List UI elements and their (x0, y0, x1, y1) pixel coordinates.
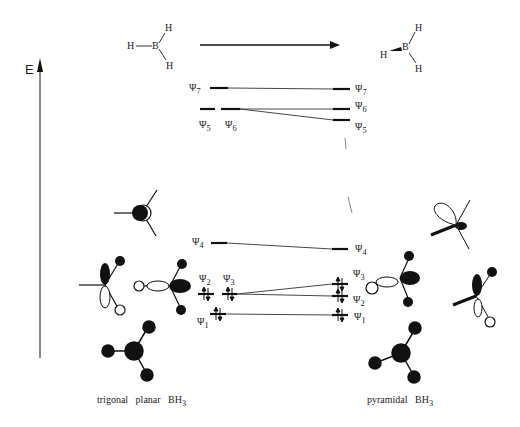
level-label-left-psi3: Ψ3 (223, 273, 235, 287)
planar-bh3-structure (136, 33, 166, 60)
orbital-psi1-pyramidal (369, 322, 421, 383)
atom-h: H (415, 22, 422, 33)
atom-h: H (166, 60, 173, 71)
orbital-psi1-planar (102, 321, 155, 381)
level-label-left-psi4: Ψ4 (192, 236, 204, 250)
level-label-right-psi1: Ψ1 (354, 311, 366, 325)
energy-axis (37, 58, 43, 358)
level-label-right-psi3: Ψ3 (353, 268, 365, 282)
level-label-left-psi6: Ψ6 (225, 119, 237, 133)
guide-marks (345, 138, 352, 213)
orbital-psi2-planar (79, 256, 125, 315)
atom-b: B (152, 40, 159, 51)
level-label-left-psi7: Ψ7 (189, 82, 201, 96)
level-label-right-psi2: Ψ2 (353, 294, 365, 308)
atom-h: H (127, 40, 134, 51)
orbital-psi3-planar (134, 259, 191, 315)
level-label-left-psi2: Ψ2 (199, 273, 211, 287)
atom-h: H (380, 49, 387, 60)
atom-h: H (165, 22, 172, 33)
orbital-psi4-pyramidal (431, 200, 470, 249)
level-label-left-psi5: Ψ5 (199, 119, 211, 133)
caption-trigonal-planar: trigonal planar BH3 (97, 394, 186, 408)
walsh-diagram-canvas (0, 0, 520, 427)
level-label-right-psi5: Ψ5 (355, 121, 367, 135)
atom-h: H (415, 63, 422, 74)
orbital-psi2-pyramidal (453, 267, 497, 327)
level-label-right-psi4: Ψ4 (355, 243, 367, 257)
caption-pyramidal: pyramidal BH3 (367, 394, 433, 408)
orbital-psi4-planar (114, 190, 157, 236)
right-levels (332, 89, 350, 315)
correlation-lines (226, 88, 333, 315)
level-label-right-psi7: Ψ7 (355, 83, 367, 97)
reaction-arrow (200, 41, 340, 49)
level-label-left-psi1: Ψ1 (197, 316, 209, 330)
orbital-psi3-pyramidal (366, 251, 420, 307)
energy-axis-label: E (25, 62, 34, 77)
atom-b: B (402, 41, 409, 52)
level-label-right-psi6: Ψ6 (355, 100, 367, 114)
